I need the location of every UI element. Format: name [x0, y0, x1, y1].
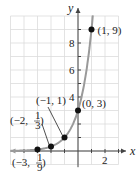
label-neg1-1: (−1, 1) [36, 94, 66, 107]
y-tick-label: 8 [69, 37, 75, 49]
label-neg3-ninth: (−3, [12, 156, 30, 169]
label-1-9: (1, 9) [98, 24, 122, 37]
label-0-3: (0, 3) [82, 97, 106, 110]
exponential-chart: xy2468 (1, 9)(0, 3)(−1, 1)(−2,13)(−3,19) [0, 0, 136, 182]
y-axis-label: y [67, 1, 74, 15]
curve-arrow-left [11, 149, 16, 154]
x-tick-label: 2 [102, 154, 108, 166]
y-tick-label: 6 [69, 64, 75, 76]
x-axis-label: x [129, 144, 136, 158]
data-point [89, 27, 95, 33]
svg-text:): ) [42, 156, 46, 169]
label-neg2-third: (−2, [10, 114, 28, 127]
y-tick-label: 4 [69, 91, 75, 103]
grid [11, 16, 119, 165]
data-point [75, 108, 81, 114]
